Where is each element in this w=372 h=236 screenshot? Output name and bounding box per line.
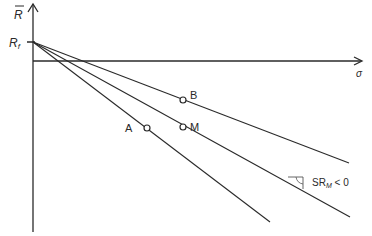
line-a bbox=[33, 42, 270, 222]
rf-label-sub: f bbox=[18, 42, 21, 51]
point-m bbox=[180, 124, 186, 130]
slope-arc-icon bbox=[296, 177, 303, 184]
point-b bbox=[180, 97, 186, 103]
sr-main: SR bbox=[312, 177, 326, 188]
y-axis-label: R bbox=[14, 8, 23, 22]
x-axis-label: σ bbox=[356, 68, 363, 79]
point-a bbox=[144, 125, 150, 131]
sr-rest: < 0 bbox=[332, 177, 349, 188]
label-m: M bbox=[190, 121, 199, 133]
capital-market-line-diagram: B M A R Rf σ SRM < 0 bbox=[0, 0, 372, 236]
rf-label: Rf bbox=[9, 36, 21, 51]
line-b bbox=[33, 42, 349, 163]
rf-label-main: R bbox=[9, 36, 18, 50]
label-a: A bbox=[125, 122, 133, 134]
sharpe-ratio-annotation: SRM < 0 bbox=[312, 177, 349, 189]
label-b: B bbox=[190, 89, 197, 101]
